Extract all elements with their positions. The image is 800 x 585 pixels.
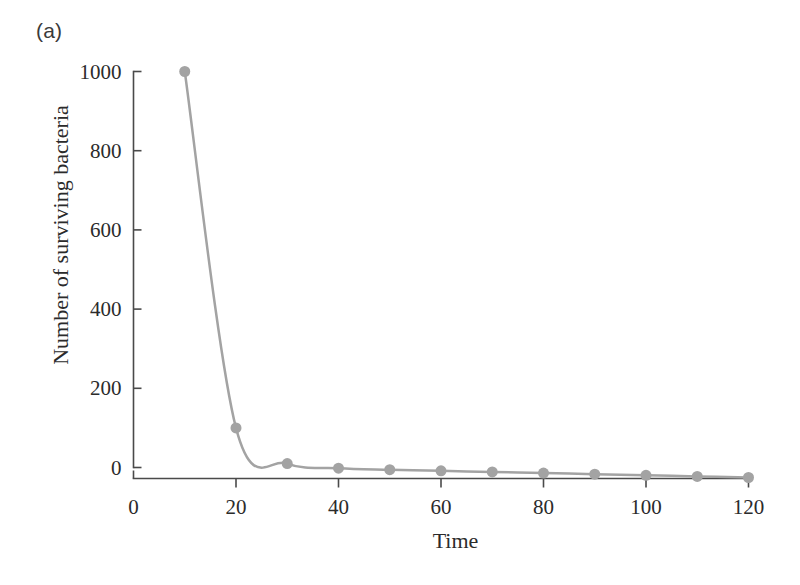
data-point-marker [538, 468, 549, 479]
data-point-marker [436, 465, 447, 476]
data-point-marker [692, 471, 703, 482]
y-axis-ticks [134, 72, 142, 468]
data-point-marker [333, 463, 344, 474]
data-point-marker [743, 472, 754, 483]
data-point-marker [589, 469, 600, 480]
data-point-marker [282, 458, 293, 469]
data-point-marker [487, 466, 498, 477]
data-point-marker [179, 66, 190, 77]
axes-group [134, 72, 749, 488]
data-point-marker [641, 470, 652, 481]
data-point-marker [384, 464, 395, 475]
series-markers-surviving-bacteria [179, 66, 754, 483]
figure-panel: (a) Number of surviving bacteria Time 02… [0, 0, 800, 585]
data-point-marker [231, 422, 242, 433]
plot-canvas [0, 0, 800, 585]
data-series-group [179, 66, 754, 483]
series-line-surviving-bacteria [185, 72, 749, 478]
